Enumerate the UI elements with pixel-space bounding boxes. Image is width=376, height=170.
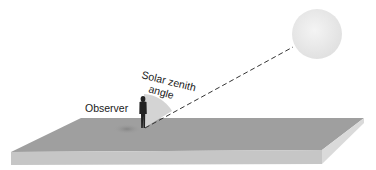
observer-shadow xyxy=(113,124,141,134)
ground-slab xyxy=(11,118,364,165)
observer-label: Observer xyxy=(85,102,129,114)
slab-top-face xyxy=(11,118,364,152)
slab-front-face xyxy=(11,150,322,165)
sun-icon xyxy=(292,9,342,59)
solar-zenith-diagram: Observer Solar zenith angle xyxy=(0,0,376,170)
